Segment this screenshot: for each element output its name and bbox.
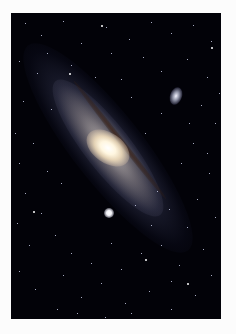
star bbox=[29, 245, 30, 246]
star bbox=[193, 25, 194, 26]
galaxy-photo bbox=[11, 13, 221, 319]
star bbox=[169, 209, 170, 210]
star bbox=[143, 57, 144, 58]
star bbox=[161, 113, 162, 114]
star bbox=[37, 73, 38, 74]
star bbox=[101, 283, 102, 284]
star bbox=[47, 53, 48, 54]
star bbox=[171, 33, 172, 34]
star bbox=[15, 133, 16, 134]
star bbox=[23, 101, 24, 102]
star bbox=[125, 303, 126, 304]
star bbox=[171, 281, 172, 282]
star bbox=[91, 263, 92, 264]
star bbox=[131, 313, 132, 314]
star bbox=[81, 297, 82, 298]
star bbox=[203, 249, 204, 250]
star bbox=[81, 43, 82, 44]
bright-star bbox=[145, 259, 147, 261]
star bbox=[131, 97, 132, 98]
star bbox=[195, 295, 196, 296]
star bbox=[47, 171, 48, 172]
star bbox=[71, 65, 72, 66]
star bbox=[179, 265, 180, 266]
star bbox=[209, 173, 210, 174]
star bbox=[187, 227, 188, 228]
star bbox=[135, 205, 136, 206]
star bbox=[201, 105, 202, 106]
star bbox=[129, 39, 130, 40]
star bbox=[215, 217, 216, 218]
star bbox=[55, 235, 56, 236]
star bbox=[207, 153, 208, 154]
star bbox=[105, 317, 106, 318]
star bbox=[19, 61, 20, 62]
star bbox=[145, 133, 146, 134]
star bbox=[187, 59, 188, 60]
star bbox=[77, 313, 78, 314]
companion-galaxy-upper bbox=[167, 85, 184, 106]
star bbox=[51, 109, 52, 110]
star bbox=[161, 71, 162, 72]
star bbox=[106, 27, 107, 28]
star bbox=[111, 53, 112, 54]
star bbox=[57, 309, 58, 310]
star bbox=[41, 35, 42, 36]
star bbox=[25, 193, 26, 194]
star bbox=[207, 77, 208, 78]
star bbox=[63, 275, 64, 276]
star bbox=[71, 253, 72, 254]
star bbox=[149, 291, 150, 292]
star bbox=[141, 253, 142, 254]
star bbox=[25, 23, 26, 24]
star bbox=[33, 143, 34, 144]
star bbox=[197, 199, 198, 200]
star bbox=[61, 183, 62, 184]
star bbox=[193, 143, 194, 144]
star bbox=[211, 41, 212, 42]
bright-star bbox=[101, 25, 103, 27]
bright-star bbox=[187, 283, 189, 285]
bright-star bbox=[33, 211, 35, 213]
star bbox=[111, 243, 112, 244]
companion-galaxy-lower bbox=[104, 208, 114, 218]
star bbox=[35, 289, 36, 290]
star bbox=[171, 309, 172, 310]
star bbox=[19, 271, 20, 272]
star bbox=[19, 163, 20, 164]
star bbox=[121, 269, 122, 270]
bright-star bbox=[211, 47, 213, 49]
star bbox=[211, 275, 212, 276]
star bbox=[189, 123, 190, 124]
star bbox=[17, 223, 18, 224]
star bbox=[121, 79, 122, 80]
star bbox=[181, 163, 182, 164]
star bbox=[215, 123, 216, 124]
star bbox=[219, 93, 220, 94]
star bbox=[151, 22, 152, 23]
star bbox=[161, 245, 162, 246]
star bbox=[95, 77, 96, 78]
bright-star bbox=[69, 73, 71, 75]
star bbox=[151, 225, 152, 226]
star bbox=[41, 213, 42, 214]
star bbox=[63, 21, 64, 22]
star bbox=[157, 191, 158, 192]
